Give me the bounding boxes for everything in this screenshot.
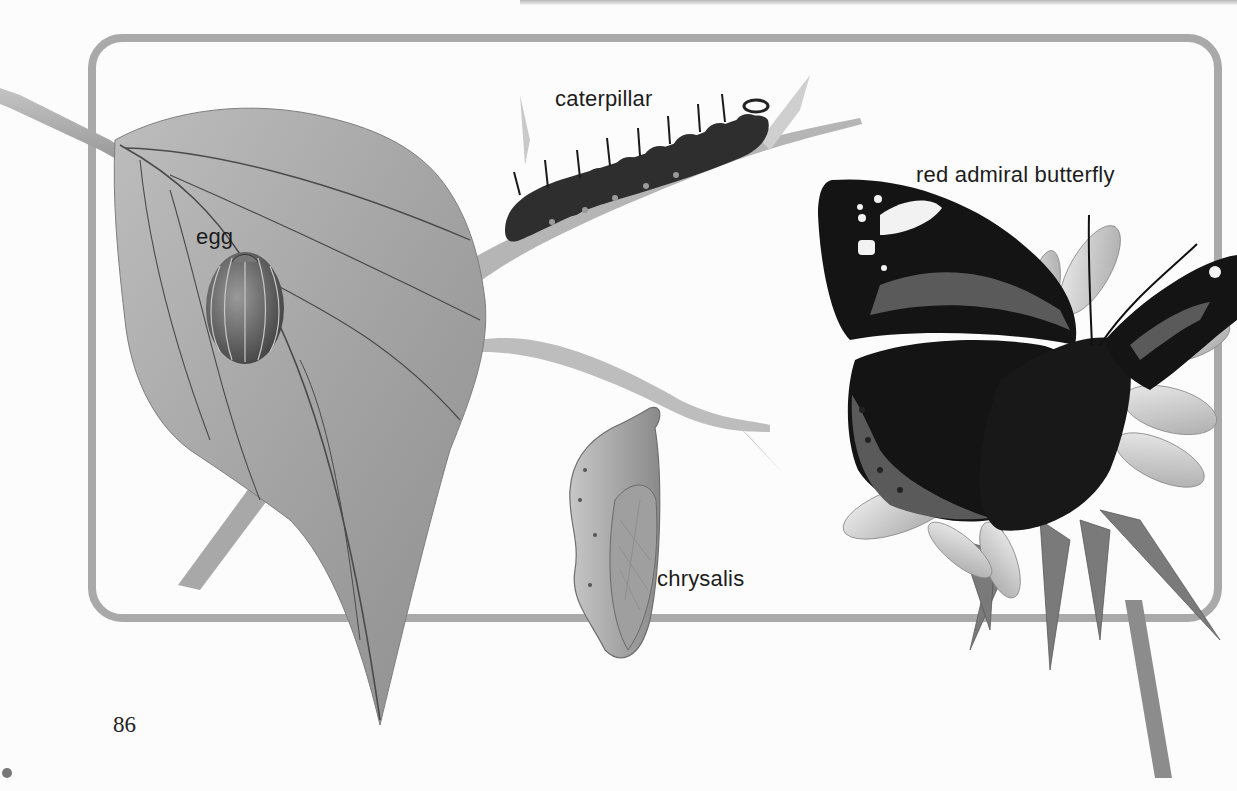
- chrysalis-icon: [570, 407, 660, 657]
- caterpillar-label: caterpillar: [555, 88, 653, 110]
- caterpillar-icon: [505, 94, 769, 242]
- egg-icon: [206, 252, 284, 364]
- book-page: egg caterpillar red admiral butterfly ch…: [0, 0, 1237, 791]
- life-cycle-illustration: [0, 0, 1237, 791]
- egg-label: egg: [196, 226, 233, 248]
- butterfly-label: red admiral butterfly: [916, 164, 1115, 186]
- leaf-icon: [114, 108, 486, 725]
- binding-mark: [2, 768, 12, 778]
- page-number: 86: [113, 712, 136, 738]
- chrysalis-label: chrysalis: [657, 568, 744, 590]
